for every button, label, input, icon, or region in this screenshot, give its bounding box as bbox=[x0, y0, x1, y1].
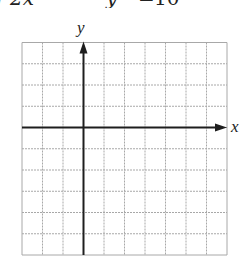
coordinate-grid bbox=[0, 0, 248, 260]
y-axis-arrow-icon bbox=[80, 42, 88, 54]
x-axis-arrow-icon bbox=[215, 124, 227, 132]
y-axis-label: y bbox=[77, 19, 85, 36]
x-axis-label: x bbox=[231, 118, 239, 135]
